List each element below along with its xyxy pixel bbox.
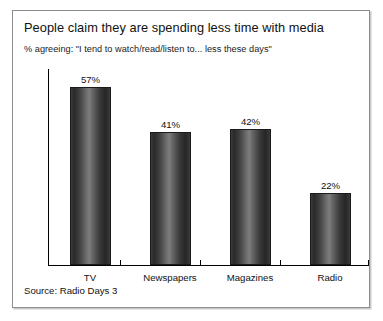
x-tick-label-tv: TV: [50, 272, 130, 284]
bar-value-label: 57%: [70, 74, 111, 85]
x-tick-label-newspapers: Newspapers: [130, 272, 210, 284]
table-row[interactable]: [310, 193, 351, 265]
x-tick-label-radio: Radio: [290, 272, 370, 284]
x-tick-label-magazines: Magazines: [210, 272, 290, 284]
bar-value-label: 22%: [310, 180, 351, 191]
bar-slot-2: 42%: [230, 69, 271, 265]
x-axis-line: [48, 265, 369, 266]
bar-slot-0: 57%: [70, 69, 111, 265]
bar-value-label: 42%: [230, 116, 271, 127]
table-row[interactable]: [230, 129, 271, 265]
page-title: People claim they are spending less time…: [24, 20, 324, 36]
table-row[interactable]: [70, 87, 111, 265]
bar-slot-3: 22%: [310, 69, 351, 265]
plot-area: 57% 41% 42% 22% TV Newspapers Magazines: [48, 69, 370, 269]
chart-subtitle: % agreeing: "I tend to watch/read/listen…: [24, 43, 272, 55]
bar-series: 57% 41% 42% 22%: [48, 69, 369, 265]
bar-value-label: 41%: [150, 119, 191, 130]
table-row[interactable]: [150, 132, 191, 265]
bar-slot-1: 41%: [150, 69, 191, 265]
chart-card: People claim they are spending less time…: [12, 10, 370, 308]
chart-screenshot: People claim they are spending less time…: [0, 0, 383, 321]
source-note: Source: Radio Days 3: [24, 285, 117, 297]
